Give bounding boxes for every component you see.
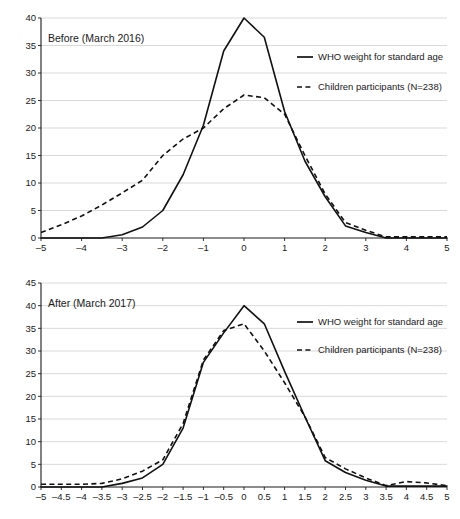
y-tick-label: 20 [25,391,36,402]
figure-weight-distribution: 0510152025303540–5–4–3–2–1012345Before (… [0,0,460,519]
x-tick-label: 4 [404,491,409,502]
x-tick-label: –3.5 [93,491,112,502]
x-tick-label: –2 [158,491,169,502]
legend-label-who-standard: WHO weight for standard age [318,51,443,62]
x-tick-label: 1 [282,491,287,502]
x-tick-label: –5 [36,491,47,502]
x-tick-label: –2.5 [133,491,152,502]
x-tick-label: –1.5 [174,491,193,502]
y-tick-label: 5 [31,459,36,470]
chart-panel-after: 051015202530354045–5–4.5–4–3.5–3–2.5–2–1… [0,262,460,519]
x-tick-label: 3 [363,242,368,253]
x-tick-label: –3 [117,242,128,253]
y-tick-label: 40 [25,12,36,23]
x-tick-label: –0.5 [214,491,233,502]
x-tick-label: –1 [198,491,209,502]
panel-title: After (March 2017) [48,297,136,309]
y-tick-label: 40 [25,300,36,311]
x-tick-label: –2 [158,242,169,253]
series-line-children-participants [41,95,447,237]
x-tick-label: 1 [282,242,287,253]
y-tick-label: 25 [25,95,36,106]
y-tick-label: 45 [25,277,36,288]
x-tick-label: 3.5 [379,491,392,502]
x-tick-label: –4 [76,242,87,253]
y-tick-label: 30 [25,67,36,78]
x-tick-label: 2 [323,491,328,502]
chart-panel-before: 0510152025303540–5–4–3–2–1012345Before (… [0,0,460,262]
chart-after-svg: 051015202530354045–5–4.5–4–3.5–3–2.5–2–1… [0,262,460,519]
x-tick-label: 2.5 [339,491,352,502]
y-tick-label: 25 [25,368,36,379]
y-tick-label: 15 [25,413,36,424]
legend-label-children-participants: Children participants (N=238) [318,344,442,355]
x-tick-label: –4.5 [52,491,71,502]
chart-before-svg: 0510152025303540–5–4–3–2–1012345Before (… [0,0,460,262]
x-tick-label: 5 [444,242,449,253]
x-tick-label: –4 [76,491,87,502]
y-tick-label: 30 [25,345,36,356]
x-tick-label: 5 [444,491,449,502]
x-tick-label: –5 [36,242,47,253]
y-tick-label: 5 [31,205,36,216]
x-tick-label: 3 [363,491,368,502]
y-tick-label: 10 [25,177,36,188]
x-tick-label: 4.5 [420,491,433,502]
x-tick-label: 0 [241,242,246,253]
x-tick-label: 4 [404,242,409,253]
y-tick-label: 20 [25,122,36,133]
x-tick-label: 0.5 [258,491,271,502]
legend-label-children-participants: Children participants (N=238) [318,81,442,92]
x-tick-label: 1.5 [298,491,311,502]
x-tick-label: 2 [323,242,328,253]
y-tick-label: 35 [25,323,36,334]
y-tick-label: 35 [25,40,36,51]
x-tick-label: –3 [117,491,128,502]
y-tick-label: 10 [25,436,36,447]
x-tick-label: 0 [241,491,246,502]
panel-title: Before (March 2016) [48,32,144,44]
x-tick-label: –1 [198,242,209,253]
y-tick-label: 15 [25,150,36,161]
legend-label-who-standard: WHO weight for standard age [318,316,443,327]
